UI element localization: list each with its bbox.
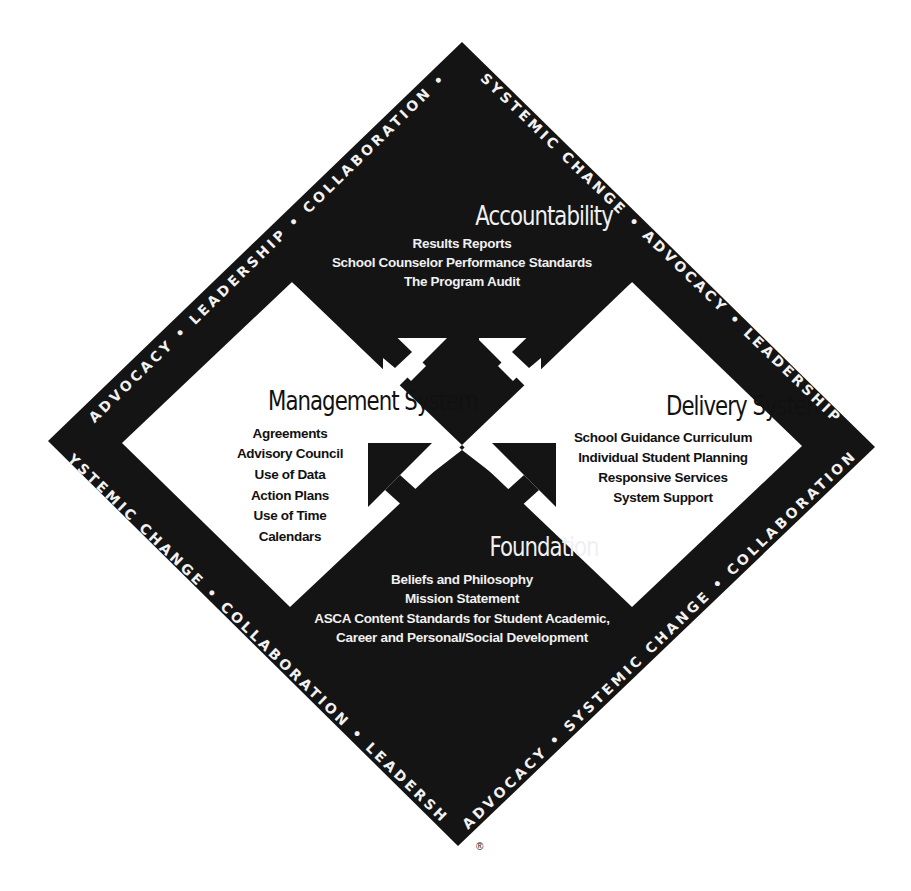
accountability-item: The Program Audit [404,274,521,289]
management-item: Advisory Council [237,446,343,461]
management-item: Calendars [259,529,322,544]
delivery-item: Responsive Services [598,470,727,485]
accountability-title: Accountability [475,201,614,232]
management-item: Use of Data [255,467,327,482]
delivery-item: School Guidance Curriculum [574,430,753,445]
management-item: Action Plans [251,488,329,503]
delivery-item: Individual Student Planning [578,450,748,465]
foundation-item: Mission Statement [405,591,520,606]
delivery-item: System Support [613,490,713,505]
foundation-title: Foundation [489,532,598,563]
management-item: Agreements [252,426,327,441]
accountability-item: Results Reports [412,236,511,251]
foundation-item: ASCA Content Standards for Student Acade… [314,611,610,626]
foundation-item: Career and Personal/Social Development [336,630,589,645]
management-title: Management System [268,386,478,417]
accountability-item: School Counselor Performance Standards [332,255,592,270]
asca-model-diagram: Accountability Results Reports School Co… [0,0,911,891]
foundation-item: Beliefs and Philosophy [391,572,534,587]
registered-mark: ® [476,841,484,852]
management-item: Use of Time [254,508,328,523]
